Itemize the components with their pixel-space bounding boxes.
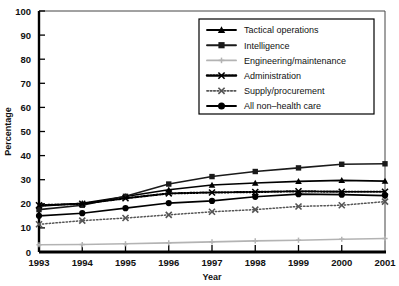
marker-circle — [382, 193, 388, 199]
marker-square — [166, 181, 171, 186]
chart-canvas: 0102030405060708090100199319941995199619… — [0, 0, 399, 286]
y-axis-tick-label: 90 — [20, 30, 31, 41]
x-axis-tick-label: 1997 — [201, 257, 222, 268]
y-axis-tick-label: 70 — [20, 78, 31, 89]
line-chart: 0102030405060708090100199319941995199619… — [0, 0, 399, 286]
marker-square — [296, 165, 301, 170]
x-axis-tick-label: 1998 — [245, 257, 266, 268]
y-axis-tick-label: 0 — [26, 247, 31, 258]
x-axis-tick-label: 1999 — [288, 257, 309, 268]
marker-circle — [252, 194, 258, 200]
chart-legend: Tactical operationsIntelligenceEngineeri… — [199, 19, 374, 114]
marker-circle — [295, 191, 301, 197]
marker-square — [218, 42, 224, 48]
x-axis-tick-label: 1993 — [28, 257, 49, 268]
legend-item-label: Tactical operations — [244, 25, 319, 35]
legend-item-label: Intelligence — [244, 41, 290, 51]
x-axis-tick-label: 1995 — [115, 257, 137, 268]
marker-square — [339, 162, 344, 167]
y-axis-tick-label: 60 — [20, 102, 31, 113]
y-axis-tick-label: 100 — [15, 6, 31, 17]
y-axis-tick-label: 50 — [20, 126, 31, 137]
x-axis-title: Year — [202, 272, 222, 282]
marker-circle — [218, 103, 225, 110]
x-axis-tick-label: 1994 — [72, 257, 94, 268]
legend-item-label: Engineering/maintenance — [244, 56, 346, 66]
marker-circle — [166, 200, 172, 206]
marker-square — [209, 174, 214, 179]
marker-circle — [122, 205, 128, 211]
y-axis-tick-label: 30 — [20, 174, 31, 185]
marker-circle — [209, 198, 215, 204]
y-axis-tick-label: 10 — [20, 222, 31, 233]
marker-circle — [36, 213, 42, 219]
marker-square — [382, 161, 387, 166]
x-axis-tick-label: 1996 — [158, 257, 179, 268]
marker-circle — [339, 192, 345, 198]
y-axis-tick-label: 80 — [20, 54, 31, 65]
x-axis-tick-label: 2001 — [374, 257, 396, 268]
legend-item-label: Supply/procurement — [244, 86, 325, 96]
y-axis-tick-label: 40 — [20, 150, 31, 161]
legend-item-label: Administration — [244, 71, 301, 81]
marker-circle — [79, 210, 85, 216]
marker-square — [253, 169, 258, 174]
x-axis-tick-label: 2000 — [331, 257, 352, 268]
legend-item-label: All non–health care — [244, 101, 321, 111]
y-axis-tick-label: 20 — [20, 198, 31, 209]
y-axis-title: Percentage — [3, 107, 13, 156]
